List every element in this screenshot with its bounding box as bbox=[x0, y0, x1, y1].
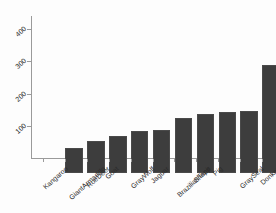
y-tick-mark bbox=[27, 61, 32, 62]
x-tick-mark bbox=[240, 159, 241, 162]
x-tick-mark bbox=[153, 159, 154, 162]
y-tick-label: 300 bbox=[4, 57, 27, 79]
x-tick-mark bbox=[131, 159, 132, 162]
bar-chart: 100200300400 KangarooGiantArmadilloRoeDe… bbox=[0, 0, 276, 213]
x-tick-mark bbox=[65, 159, 66, 162]
x-tick-label: Kangaroo bbox=[42, 165, 69, 191]
x-tick-mark bbox=[87, 159, 88, 162]
x-tick-label: Pig bbox=[212, 165, 224, 177]
x-tick-mark bbox=[43, 159, 44, 162]
bar bbox=[262, 65, 276, 173]
x-tick-mark bbox=[174, 159, 175, 162]
bars-group bbox=[63, 28, 276, 173]
plot-area bbox=[31, 14, 274, 159]
y-tick-mark bbox=[27, 94, 32, 95]
x-tick-mark bbox=[218, 159, 219, 162]
y-tick-label: 200 bbox=[4, 89, 27, 111]
x-tick-mark bbox=[196, 159, 197, 162]
x-tick-mark bbox=[262, 159, 263, 162]
x-tick-label: Sheep bbox=[193, 165, 213, 184]
x-tick-mark bbox=[109, 159, 110, 162]
y-tick-label: 400 bbox=[4, 25, 27, 47]
y-tick-label: 100 bbox=[4, 122, 27, 144]
x-axis-labels: KangarooGiantArmadilloRoeDeerGoatGrayWol… bbox=[0, 159, 276, 213]
